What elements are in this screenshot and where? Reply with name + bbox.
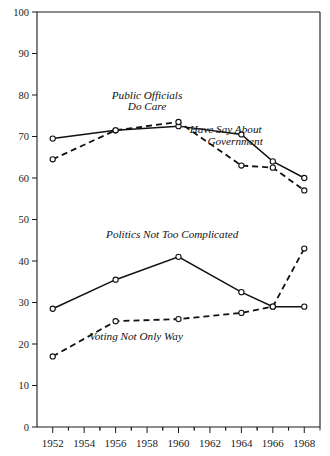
- data-point-marker: [50, 306, 55, 311]
- x-tick-label: 1962: [199, 437, 221, 449]
- x-axis-tick-labels: 195219541956195819601962196419661968: [42, 437, 316, 449]
- data-point-marker: [113, 128, 118, 133]
- data-point-marker: [302, 175, 307, 180]
- series-annotation-label: Public Officials: [111, 89, 183, 101]
- y-tick-label: 30: [19, 297, 30, 308]
- data-point-marker: [113, 319, 118, 324]
- y-tick-label: 20: [19, 339, 30, 350]
- axes: [32, 12, 320, 433]
- x-tick-label: 1956: [105, 437, 128, 449]
- line-chart: 0102030405060708090100 19521954195619581…: [0, 0, 330, 456]
- data-point-marker: [270, 159, 275, 164]
- y-tick-label: 0: [24, 422, 29, 433]
- data-point-marker: [239, 290, 244, 295]
- x-axis-ticks: [53, 427, 320, 433]
- data-point-marker: [50, 157, 55, 162]
- data-point-marker: [270, 304, 275, 309]
- y-tick-label: 100: [13, 7, 29, 18]
- series-annotation-label: Have Say About: [189, 123, 263, 135]
- x-tick-label: 1966: [262, 437, 285, 449]
- axis-lines: [37, 12, 320, 427]
- data-point-marker: [302, 246, 307, 251]
- series-annotation-label: Politics Not Too Complicated: [105, 228, 239, 240]
- y-tick-label: 80: [19, 90, 30, 101]
- y-axis-ticks: [32, 12, 37, 427]
- data-point-marker: [239, 163, 244, 168]
- data-point-marker: [113, 277, 118, 282]
- y-tick-label: 90: [19, 48, 30, 59]
- y-tick-label: 60: [19, 173, 30, 184]
- x-tick-label: 1968: [293, 437, 316, 449]
- data-point-marker: [302, 188, 307, 193]
- y-axis-tick-labels: 0102030405060708090100: [13, 7, 29, 433]
- x-tick-label: 1954: [73, 437, 96, 449]
- series-annotation-label: Government: [207, 135, 263, 147]
- series-annotation-label: Voting Not Only Way: [89, 330, 183, 342]
- data-point-marker: [270, 165, 275, 170]
- data-point-marker: [176, 317, 181, 322]
- data-point-marker: [50, 136, 55, 141]
- x-tick-label: 1964: [230, 437, 253, 449]
- x-tick-label: 1958: [136, 437, 159, 449]
- y-tick-label: 70: [19, 131, 30, 142]
- data-point-marker: [176, 254, 181, 259]
- data-point-marker: [176, 119, 181, 124]
- y-tick-label: 50: [19, 214, 30, 225]
- data-point-marker: [302, 304, 307, 309]
- data-point-marker: [50, 354, 55, 359]
- y-tick-label: 10: [19, 380, 30, 391]
- series-line: [53, 257, 305, 309]
- chart-container: 0102030405060708090100 19521954195619581…: [0, 0, 330, 456]
- x-tick-label: 1952: [42, 437, 64, 449]
- x-tick-label: 1960: [168, 437, 191, 449]
- y-tick-label: 40: [19, 256, 30, 267]
- data-point-marker: [239, 310, 244, 315]
- series-annotation-label: Do Care: [127, 100, 166, 112]
- series-line: [53, 126, 305, 178]
